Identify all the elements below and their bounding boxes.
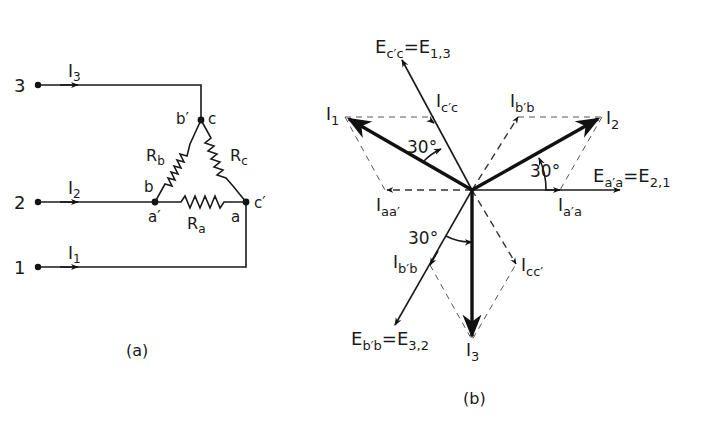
label-eaa: Ea′a=E2,1: [593, 165, 670, 190]
label-ebb: Eb′b=E3,2: [351, 328, 429, 353]
phasor-icc-marker: [430, 120, 434, 123]
resistor-rb-label: Rb: [146, 146, 165, 168]
node-c-label: c: [208, 110, 216, 128]
terminal-1-label: 1: [14, 257, 25, 278]
label-iaa-right: Ia′a: [558, 195, 582, 219]
label-icc-up: Ic′c: [436, 91, 458, 115]
resistor-ra-label: Ra: [187, 214, 205, 236]
caption-a: (a): [126, 341, 148, 360]
phasor-ibb-marker: [430, 251, 438, 265]
caption-b: (b): [463, 389, 486, 408]
terminal-3-label: 3: [14, 75, 25, 96]
terminal-2-label: 2: [14, 192, 25, 213]
node-c-prime-label: c′: [254, 194, 266, 212]
label-i3: I3: [466, 340, 479, 364]
node-b-prime-label: b′: [176, 110, 190, 128]
angle-arc-lower: [446, 236, 472, 242]
resistor-ra: [155, 196, 246, 208]
label-ibb-up: Ib′b: [510, 91, 534, 115]
node-a-prime-label: a′: [148, 208, 161, 226]
label-ecc: Ec′c=E1,3: [375, 36, 451, 61]
label-ibb-down: Ib′b: [393, 252, 417, 276]
angle-label-upper: 30°: [407, 137, 437, 157]
phasor-diagram: Ec′c=E1,3 Ic′c Ib′b I1 I2 Ea′a=E2,1 Iaa′…: [326, 36, 670, 408]
label-iaa-left: Iaa′: [376, 195, 400, 219]
resistor-rc-label: Rc: [230, 146, 248, 168]
label-icc-down: Icc′: [521, 255, 543, 279]
node-a-label: a: [231, 208, 240, 226]
phasor-icc-prime: [472, 190, 516, 264]
label-i2: I2: [606, 108, 619, 132]
label-i1: I1: [326, 104, 339, 128]
current-i3-label: I3: [68, 61, 81, 84]
node-b-label: b: [144, 178, 154, 196]
current-i1-label: I1: [68, 243, 81, 266]
phasor-ibb-up: [472, 117, 518, 190]
angle-label-right: 30°: [530, 161, 560, 181]
circuit-diagram: 3 2 1 I3 I2 I1 b′ c b a′ a c′ Rb Rc Ra (…: [14, 61, 266, 360]
current-i2-label: I2: [68, 178, 81, 201]
figure-canvas: 3 2 1 I3 I2 I1 b′ c b a′ a c′ Rb Rc Ra (…: [0, 0, 705, 427]
angle-label-lower: 30°: [408, 228, 438, 248]
